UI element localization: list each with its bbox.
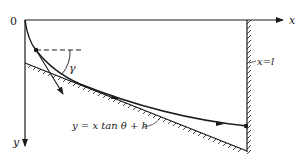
ground-line-label: y = x tan θ + h — [71, 120, 148, 131]
trajectory-curve — [25, 20, 248, 128]
x-axis-label: x — [289, 14, 296, 27]
ground-hatching — [28, 65, 241, 152]
wall-label: x=l — [257, 56, 274, 67]
origin-label: 0 — [10, 15, 17, 28]
ground-line — [25, 63, 247, 152]
angle-label: γ — [69, 62, 76, 75]
y-axis-label: y — [12, 136, 20, 149]
flow-arrow-icon — [111, 95, 120, 99]
trajectory-diagram: x 0 y — [0, 0, 300, 158]
wall-hit-marker — [244, 124, 248, 128]
wall-hatching — [247, 20, 251, 154]
wall — [247, 20, 251, 154]
